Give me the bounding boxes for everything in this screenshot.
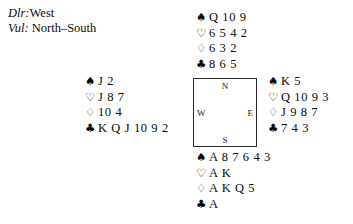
diamond-icon: ♢ — [196, 41, 209, 57]
south-clubs-ranks: A — [209, 197, 219, 213]
east-diamonds-ranks: J 9 8 7 — [281, 105, 318, 121]
spade-icon: ♠ — [268, 74, 281, 90]
north-clubs-line: ♣ 8 6 5 — [196, 57, 248, 73]
compass-east-label: E — [248, 108, 254, 118]
vulnerability-value: North–South — [32, 21, 97, 35]
spade-icon: ♠ — [196, 150, 209, 166]
south-diamonds-ranks: A K Q 5 — [209, 181, 255, 197]
north-diamonds-ranks: 6 3 2 — [209, 41, 237, 57]
south-spades-ranks: A 8 7 6 4 3 — [209, 150, 271, 166]
west-clubs-line: ♣ K Q J 10 9 2 — [85, 121, 169, 137]
diamond-icon: ♢ — [85, 105, 98, 121]
south-hand: ♠ A 8 7 6 4 3 ♡ A K ♢ A K Q 5 ♣ A — [196, 150, 271, 212]
spade-icon: ♠ — [85, 74, 98, 90]
compass-north-label: N — [222, 81, 229, 91]
heart-icon: ♡ — [196, 26, 209, 42]
deal-info-block: Dlr:West Vul: North–South — [8, 6, 96, 36]
east-hand: ♠ K 5 ♡ Q 10 9 3 ♢ J 9 8 7 ♣ 7 4 3 — [268, 74, 329, 136]
dealer-value: West — [30, 6, 55, 20]
heart-icon: ♡ — [196, 166, 209, 182]
north-clubs-ranks: 8 6 5 — [209, 57, 237, 73]
north-hearts-line: ♡ 6 5 4 2 — [196, 26, 248, 42]
west-hearts-line: ♡ J 8 7 — [85, 90, 169, 106]
west-diamonds-line: ♢ 10 4 — [85, 105, 169, 121]
spade-icon: ♠ — [196, 10, 209, 26]
north-spades-line: ♠ Q 10 9 — [196, 10, 248, 26]
west-hearts-ranks: J 8 7 — [98, 90, 125, 106]
compass-south-label: S — [222, 135, 227, 145]
north-spades-ranks: Q 10 9 — [209, 10, 247, 26]
east-spades-ranks: K 5 — [281, 74, 301, 90]
west-diamonds-ranks: 10 4 — [98, 105, 122, 121]
south-clubs-line: ♣ A — [196, 197, 271, 213]
east-clubs-line: ♣ 7 4 3 — [268, 121, 329, 137]
east-clubs-ranks: 7 4 3 — [281, 121, 309, 137]
dealer-label: Dlr: — [8, 6, 30, 20]
diamond-icon: ♢ — [196, 181, 209, 197]
west-spades-line: ♠ J 2 — [85, 74, 169, 90]
north-diamonds-line: ♢ 6 3 2 — [196, 41, 248, 57]
south-hearts-ranks: A K — [209, 166, 231, 182]
compass-west-label: W — [197, 108, 206, 118]
east-spades-line: ♠ K 5 — [268, 74, 329, 90]
heart-icon: ♡ — [268, 90, 281, 106]
south-spades-line: ♠ A 8 7 6 4 3 — [196, 150, 271, 166]
club-icon: ♣ — [268, 121, 281, 137]
east-diamonds-line: ♢ J 9 8 7 — [268, 105, 329, 121]
club-icon: ♣ — [196, 57, 209, 73]
north-hand: ♠ Q 10 9 ♡ 6 5 4 2 ♢ 6 3 2 ♣ 8 6 5 — [196, 10, 248, 72]
south-hearts-line: ♡ A K — [196, 166, 271, 182]
south-diamonds-line: ♢ A K Q 5 — [196, 181, 271, 197]
west-clubs-ranks: K Q J 10 9 2 — [98, 121, 169, 137]
vulnerability-label: Vul: — [8, 21, 29, 35]
heart-icon: ♡ — [85, 90, 98, 106]
diamond-icon: ♢ — [268, 105, 281, 121]
east-hearts-line: ♡ Q 10 9 3 — [268, 90, 329, 106]
west-spades-ranks: J 2 — [98, 74, 114, 90]
north-hearts-ranks: 6 5 4 2 — [209, 26, 248, 42]
club-icon: ♣ — [85, 121, 98, 137]
vulnerability-line: Vul: North–South — [8, 21, 96, 36]
compass-box: N W E S — [193, 78, 257, 147]
west-hand: ♠ J 2 ♡ J 8 7 ♢ 10 4 ♣ K Q J 10 9 2 — [85, 74, 169, 136]
east-hearts-ranks: Q 10 9 3 — [281, 90, 329, 106]
dealer-line: Dlr:West — [8, 6, 96, 21]
club-icon: ♣ — [196, 197, 209, 213]
